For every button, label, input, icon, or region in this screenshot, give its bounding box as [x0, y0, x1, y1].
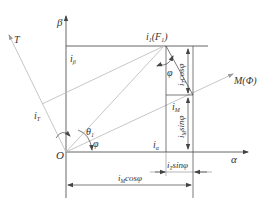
it-cos-label: iTcosφ	[176, 63, 187, 86]
t-label: T	[14, 34, 21, 45]
i1-f1-label: i1(F1)	[146, 31, 168, 43]
i-alpha-label: iα	[153, 139, 160, 151]
t-axis	[9, 35, 66, 152]
i-t-label: iT	[34, 110, 41, 122]
theta1-label: θ1	[86, 126, 94, 138]
phi-origin-label: φ	[93, 138, 99, 149]
beta-label: β	[56, 16, 63, 28]
im-sin-label: iMsinφ	[176, 115, 187, 138]
i-m-label: iM	[172, 101, 181, 113]
im-cos-label: iMcosφ	[118, 173, 142, 184]
it-projection	[42, 46, 164, 104]
i1-vector	[66, 46, 164, 152]
phi-top-label: φ	[167, 67, 173, 78]
alpha-label: α	[231, 153, 237, 165]
origin-label: O	[56, 149, 64, 161]
it-sin-label: iTsinφ	[167, 160, 188, 171]
vector-diagram: β T iβ i1(F1) M(Φ) iT O θ1 φ φ iTcosφ iM…	[0, 0, 261, 212]
m-phi-label: M(Φ)	[233, 75, 257, 87]
i-beta-label: iβ	[70, 53, 76, 65]
rotation-arc-left	[56, 132, 70, 138]
m-axis	[66, 74, 233, 152]
